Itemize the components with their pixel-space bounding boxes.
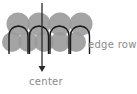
center-label: center [29,76,63,87]
edge-row-label: edge row [88,39,137,50]
upper-row-circle [28,13,51,36]
arrowhead-icon [39,66,46,72]
